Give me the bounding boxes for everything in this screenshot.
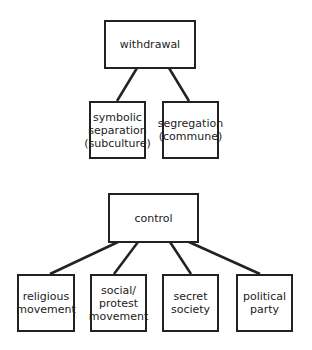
node-secret-society: secret society <box>162 274 219 332</box>
node-segregation: segregation (commune) <box>162 101 219 159</box>
node-label: segregation (commune) <box>158 117 223 143</box>
node-religious-movement: religious movement <box>17 274 75 332</box>
node-label: political party <box>243 290 286 316</box>
node-label: secret society <box>171 290 210 316</box>
node-social-protest-movement: social/ protest movement <box>90 274 147 332</box>
node-label: symbolic separation (subculture) <box>84 111 151 150</box>
node-withdrawal: withdrawal <box>104 20 196 69</box>
node-political-party: political party <box>236 274 293 332</box>
node-control: control <box>108 193 199 243</box>
node-label: social/ protest movement <box>89 284 149 323</box>
node-label: control <box>134 212 172 225</box>
node-label: withdrawal <box>120 38 180 51</box>
node-symbolic-separation: symbolic separation (subculture) <box>89 101 146 159</box>
node-label: religious movement <box>16 290 76 316</box>
